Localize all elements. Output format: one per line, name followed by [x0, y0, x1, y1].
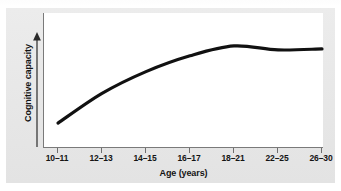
x-axis-title: Age (years): [43, 168, 324, 178]
x-axis-tick-label: 16–17: [167, 153, 211, 163]
chart-figure: · · · Cognitive capacity 10–11 12–13 14–…: [0, 0, 341, 191]
scan-artifact-strip: · · ·: [0, 0, 341, 6]
x-axis-tick-label: 26–30: [299, 153, 341, 163]
cognitive-capacity-curve: [44, 13, 324, 148]
x-axis-tick-label: 22–25: [255, 153, 299, 163]
x-axis-tick-labels: 10–11 12–13 14–15 16–17 18–21 22–25 26–3…: [43, 153, 324, 167]
x-axis-tick-label: 18–21: [211, 153, 255, 163]
x-axis-tick-label: 10–11: [35, 153, 79, 163]
plot-area: [43, 13, 323, 148]
x-axis-tick-label: 14–15: [123, 153, 167, 163]
x-axis-tick-label: 12–13: [79, 153, 123, 163]
y-axis-arrow-icon: [30, 30, 44, 150]
